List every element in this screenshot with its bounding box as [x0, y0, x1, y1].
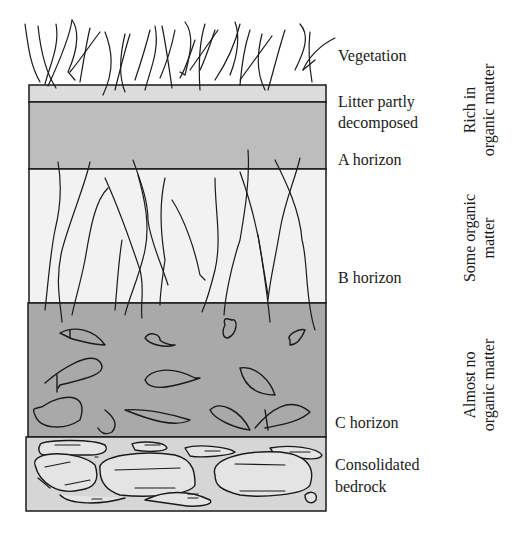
bedrock-label-line1: Consolidated — [335, 455, 419, 474]
soil-profile-diagram: Vegetation Litter partly decomposed A ho… — [0, 0, 516, 535]
organic-rich-line1: Rich in — [460, 50, 479, 170]
vegetation-grass — [25, 20, 335, 95]
organic-some-label: Some organic matter — [460, 175, 500, 301]
organic-some-line1: Some organic — [460, 175, 479, 301]
vegetation-label: Vegetation — [338, 46, 406, 65]
bedrock-label-line2: bedrock — [335, 477, 387, 496]
a-horizon-layer — [29, 102, 326, 169]
organic-some-line2: matter — [479, 175, 498, 301]
organic-rich-label: Rich in organic matter — [460, 50, 500, 170]
soil-profile-graphic — [0, 0, 516, 535]
organic-rich-line2: organic matter — [479, 50, 498, 170]
organic-almost-none-label: Almost no organic matter — [460, 315, 500, 455]
organic-almost-none-line2: organic matter — [479, 315, 498, 455]
organic-almost-none-line1: Almost no — [460, 315, 479, 455]
c-horizon-label: C horizon — [335, 413, 399, 432]
a-horizon-label: A horizon — [338, 150, 402, 169]
litter-layer — [29, 85, 326, 102]
litter-label-line1: Litter partly — [338, 92, 415, 111]
b-horizon-layer — [29, 169, 326, 303]
litter-label-line2: decomposed — [338, 113, 418, 132]
b-horizon-label: B horizon — [338, 268, 402, 287]
